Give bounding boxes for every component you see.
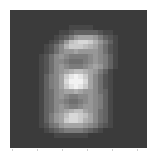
axis-tick [112, 149, 113, 151]
axis-tick [12, 149, 13, 151]
axis-tick [87, 149, 88, 151]
pixel-cell [142, 143, 147, 148]
axis-tick [37, 149, 38, 151]
axis-tick [137, 149, 138, 151]
digit-image [10, 10, 147, 148]
axis-tick [62, 149, 63, 151]
